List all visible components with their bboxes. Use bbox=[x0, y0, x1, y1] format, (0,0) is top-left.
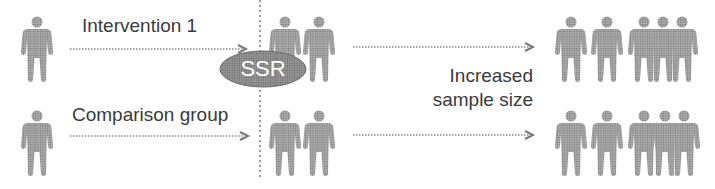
comparison-final-person-icon bbox=[667, 110, 701, 176]
intervention-final-person-icon bbox=[590, 16, 624, 82]
increased-sample-size-line1: Increased bbox=[450, 66, 533, 85]
comparison-arrow-icon bbox=[70, 131, 250, 141]
intervention-final-person-icon bbox=[665, 16, 699, 82]
comparison-label: Comparison group bbox=[72, 105, 228, 124]
comparison-final-person-icon bbox=[554, 110, 588, 176]
increased-sample-size-line2: sample size bbox=[433, 90, 533, 109]
comparison-final-arrow-icon bbox=[353, 130, 535, 140]
comparison-interim-person-icon bbox=[302, 110, 336, 176]
interim-analysis-divider bbox=[259, 0, 261, 178]
intervention-interim-person-icon bbox=[302, 16, 336, 82]
comparison-final-person-icon bbox=[590, 110, 624, 176]
ssr-badge: SSR bbox=[219, 50, 307, 88]
comparison-initial-person-icon bbox=[20, 110, 54, 176]
intervention-label: Intervention 1 bbox=[82, 16, 197, 35]
intervention-initial-person-icon bbox=[20, 16, 54, 82]
comparison-interim-person-icon bbox=[268, 110, 302, 176]
intervention-final-person-icon bbox=[554, 16, 588, 82]
ssr-label: SSR bbox=[219, 50, 307, 88]
intervention-final-arrow-icon bbox=[353, 42, 535, 52]
